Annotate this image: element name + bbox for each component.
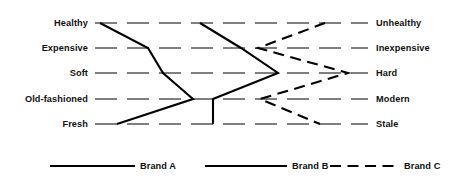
axis-label-left-4: Fresh xyxy=(62,119,88,129)
legend-label-2: Brand C xyxy=(404,161,441,171)
axis-label-left-1: Expensive xyxy=(42,43,88,53)
axis-label-left-0: Healthy xyxy=(54,18,89,28)
legend-label-1: Brand B xyxy=(292,161,329,171)
axis-label-right-1: Inexpensive xyxy=(376,43,430,53)
axis-label-right-4: Stale xyxy=(376,119,398,129)
axis-label-left-3: Old-fashioned xyxy=(25,94,88,104)
axis-label-left-2: Soft xyxy=(70,68,88,78)
axis-label-right-3: Modern xyxy=(376,94,410,104)
axis-label-right-0: Unhealthy xyxy=(376,18,422,28)
legend-label-0: Brand A xyxy=(140,161,176,171)
axis-label-right-2: Hard xyxy=(376,68,397,78)
snake-plot-chart: HealthyExpensiveSoftOld-fashionedFresh U… xyxy=(0,0,454,183)
